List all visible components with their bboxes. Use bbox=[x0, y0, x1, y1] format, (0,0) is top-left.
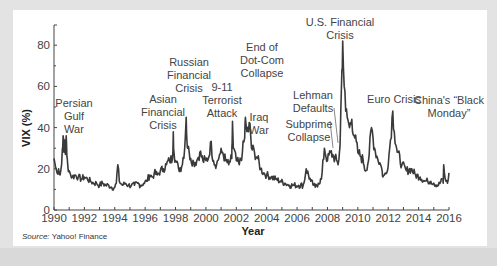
svg-text:Collapse: Collapse bbox=[241, 67, 284, 79]
x-axis-title: Year bbox=[241, 225, 265, 237]
x-tick-label: 1996 bbox=[132, 212, 158, 224]
svg-text:Collapse: Collapse bbox=[288, 131, 331, 143]
x-tick-label: 2016 bbox=[436, 212, 462, 224]
svg-text:Crisis: Crisis bbox=[326, 29, 354, 41]
svg-text:China's “Black: China's “Black bbox=[414, 94, 484, 106]
vix-chart: 020406080 199019921994199619982000200220… bbox=[0, 0, 497, 266]
svg-text:End of: End of bbox=[246, 41, 279, 53]
x-tick-label: 2006 bbox=[284, 212, 310, 224]
svg-text:Crisis: Crisis bbox=[175, 82, 203, 94]
y-axis-title: VIX (%) bbox=[20, 109, 32, 147]
svg-text:War: War bbox=[249, 124, 269, 136]
y-ticks: 020406080 bbox=[37, 39, 57, 216]
x-tick-label: 2002 bbox=[224, 212, 250, 224]
svg-text:Financial: Financial bbox=[141, 106, 185, 118]
svg-text:Subprime: Subprime bbox=[285, 118, 332, 130]
svg-text:Monday”: Monday” bbox=[428, 107, 471, 119]
x-tick-label: 1998 bbox=[163, 212, 189, 224]
y-tick-label: 20 bbox=[37, 163, 50, 175]
x-tick-label: 2012 bbox=[375, 212, 401, 224]
x-tick-label: 2008 bbox=[315, 212, 341, 224]
svg-text:Dot-Com: Dot-Com bbox=[240, 54, 284, 66]
svg-text:Gulf: Gulf bbox=[64, 110, 85, 122]
x-tick-label: 2000 bbox=[193, 212, 219, 224]
annotation-us-financial-crisis: U.S. Financial Crisis bbox=[306, 16, 374, 41]
annotation-dot-com-collapse: End of Dot-Com Collapse bbox=[240, 41, 284, 79]
svg-text:Financial: Financial bbox=[167, 69, 211, 81]
svg-text:U.S. Financial: U.S. Financial bbox=[306, 16, 374, 28]
x-tick-label: 1994 bbox=[102, 212, 128, 224]
annotation-iraq-war: Iraq War bbox=[249, 111, 269, 136]
annotation-russian-financial-crisis: Russian Financial Crisis bbox=[167, 56, 211, 94]
source-text: Yahoo! Finance bbox=[50, 232, 108, 241]
annotation-asian-financial-crisis: Asian Financial Crisis bbox=[141, 93, 185, 131]
source-prefix: Source: bbox=[22, 232, 50, 241]
x-tick-label: 2010 bbox=[345, 212, 371, 224]
svg-text:Defaults: Defaults bbox=[293, 102, 334, 114]
x-tick-label: 2014 bbox=[406, 212, 432, 224]
annotation-china-black-monday: China's “Black Monday” bbox=[414, 94, 484, 119]
y-axis bbox=[54, 25, 57, 210]
x-tick-label: 1992 bbox=[72, 212, 98, 224]
svg-text:Crisis: Crisis bbox=[149, 119, 177, 131]
svg-text:Iraq: Iraq bbox=[250, 111, 269, 123]
annotation-persian-gulf-war: Persian Gulf War bbox=[55, 97, 92, 135]
svg-text:Russian: Russian bbox=[169, 56, 209, 68]
y-tick-label: 60 bbox=[37, 80, 50, 92]
svg-text:Asian: Asian bbox=[149, 93, 177, 105]
svg-text:9-11: 9-11 bbox=[211, 81, 232, 93]
y-tick-label: 40 bbox=[37, 122, 50, 134]
svg-text:Lehman: Lehman bbox=[293, 89, 333, 101]
y-tick-label: 80 bbox=[37, 39, 50, 51]
source-note: Source: Yahoo! Finance bbox=[22, 232, 107, 241]
x-tick-label: 1990 bbox=[41, 212, 67, 224]
annotation-9-11-terrorist-attack: 9-11 Terrorist Attack bbox=[202, 81, 242, 119]
svg-text:Terrorist: Terrorist bbox=[202, 94, 242, 106]
svg-text:War: War bbox=[64, 123, 84, 135]
svg-text:Attack: Attack bbox=[207, 107, 238, 119]
annotation-subprime-collapse: Subprime Collapse bbox=[285, 118, 333, 148]
svg-text:Persian: Persian bbox=[55, 97, 92, 109]
x-tick-label: 2004 bbox=[254, 212, 280, 224]
